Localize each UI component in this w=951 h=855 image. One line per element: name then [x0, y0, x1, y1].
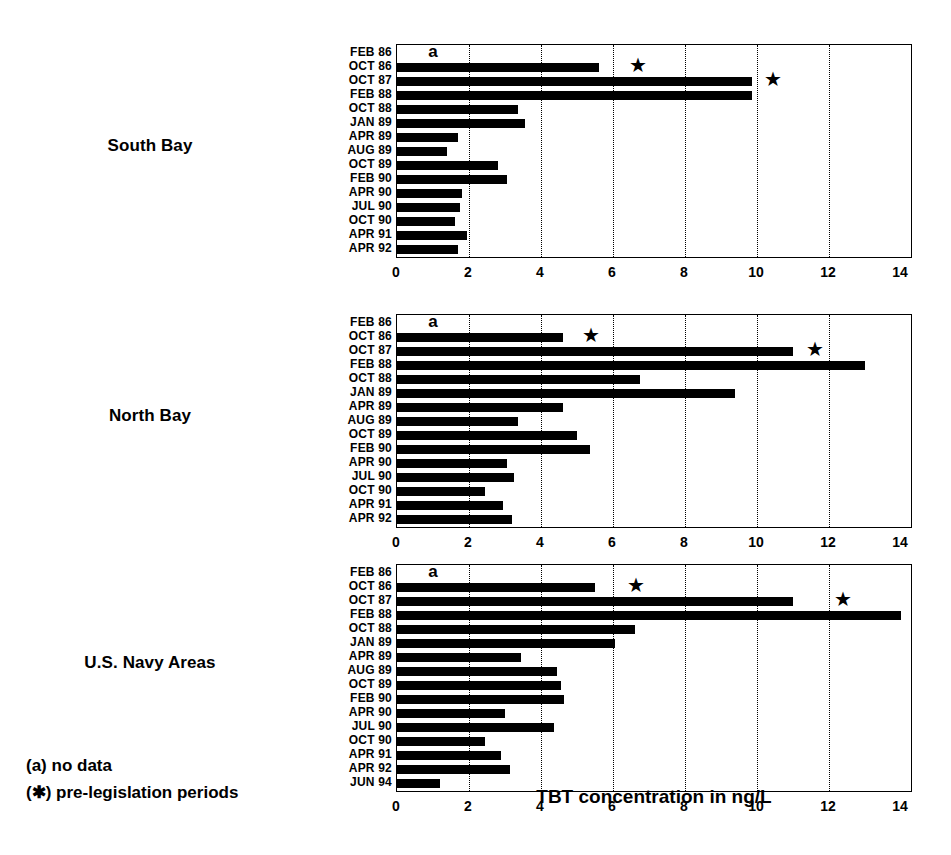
category-label: APR 90	[300, 706, 392, 720]
pre-legislation-star-icon: ★	[806, 342, 824, 356]
bar	[397, 515, 512, 524]
category-label: OCT 86	[300, 60, 392, 74]
category-label: OCT 87	[300, 74, 392, 88]
bar	[397, 445, 590, 454]
bar	[397, 709, 505, 718]
category-label: FEB 88	[300, 608, 392, 622]
x-tick-label: 0	[392, 264, 400, 280]
bar-row	[397, 693, 911, 707]
bar	[397, 203, 460, 212]
x-tick-label: 4	[536, 534, 544, 550]
bar-row: a	[397, 567, 911, 581]
category-label: AUG 89	[300, 664, 392, 678]
category-label: OCT 86	[300, 330, 392, 344]
panel-south-bay: South BayFEB 86OCT 86OCT 87FEB 88OCT 88J…	[0, 30, 951, 280]
panel-label-north-bay: North Bay	[10, 406, 290, 426]
category-label: APR 92	[300, 762, 392, 776]
plot-area-u-s-navy-areas: a★★	[396, 564, 912, 792]
bar-row: a	[397, 47, 911, 61]
bar-row	[397, 145, 911, 159]
bar	[397, 501, 503, 510]
bar-row: a	[397, 317, 911, 331]
pre-legislation-star-icon: ★	[764, 72, 782, 86]
category-label: OCT 87	[300, 344, 392, 358]
bar-row	[397, 499, 911, 513]
category-label: APR 89	[300, 400, 392, 414]
category-label: OCT 88	[300, 622, 392, 636]
category-label: FEB 88	[300, 88, 392, 102]
bar	[397, 611, 901, 620]
category-label: JUL 90	[300, 470, 392, 484]
bar	[397, 245, 458, 254]
bar-row	[397, 471, 911, 485]
category-label: JAN 89	[300, 636, 392, 650]
category-label: JAN 89	[300, 386, 392, 400]
figure-legend: (a) no data (✱) pre-legislation periods	[26, 752, 238, 806]
bar	[397, 347, 793, 356]
bar-row	[397, 159, 911, 173]
bar-row: ★	[397, 595, 911, 609]
bar-row	[397, 513, 911, 527]
category-label: FEB 86	[300, 566, 392, 580]
bar	[397, 63, 599, 72]
category-label: OCT 89	[300, 158, 392, 172]
category-label: APR 92	[300, 512, 392, 526]
category-label: APR 91	[300, 498, 392, 512]
category-label: FEB 90	[300, 172, 392, 186]
no-data-marker: a	[428, 45, 437, 59]
bar-row	[397, 401, 911, 415]
category-label: APR 90	[300, 186, 392, 200]
bar-row	[397, 707, 911, 721]
category-label: AUG 89	[300, 144, 392, 158]
bar-row	[397, 89, 911, 103]
bar	[397, 375, 640, 384]
bar	[397, 695, 564, 704]
bar-rows: a★★	[397, 565, 911, 791]
x-tick-label: 10	[748, 264, 764, 280]
bar-row: ★	[397, 331, 911, 345]
category-label: JUN 94	[300, 776, 392, 790]
category-label: APR 89	[300, 650, 392, 664]
x-tick-label: 2	[464, 534, 472, 550]
bar-row	[397, 201, 911, 215]
bar-row	[397, 215, 911, 229]
category-label: FEB 86	[300, 316, 392, 330]
bar	[397, 333, 563, 342]
bar-row	[397, 429, 911, 443]
bar-row	[397, 665, 911, 679]
bar-rows: a★★	[397, 315, 911, 527]
bar	[397, 91, 752, 100]
category-label: JUL 90	[300, 720, 392, 734]
x-tick-label: 10	[748, 534, 764, 550]
bar-row	[397, 229, 911, 243]
legend-pre-legislation: (✱) pre-legislation periods	[26, 779, 238, 806]
pre-legislation-star-icon: ★	[834, 592, 852, 606]
bar	[397, 653, 521, 662]
bar-row	[397, 173, 911, 187]
bar	[397, 105, 518, 114]
bar	[397, 431, 577, 440]
bar-row	[397, 415, 911, 429]
x-tick-label: 2	[464, 264, 472, 280]
category-label: AUG 89	[300, 414, 392, 428]
bar-row	[397, 485, 911, 499]
category-label: JAN 89	[300, 116, 392, 130]
bar	[397, 403, 563, 412]
x-tick-label: 12	[820, 534, 836, 550]
no-data-marker: a	[428, 565, 437, 579]
plot-area-north-bay: a★★	[396, 314, 912, 528]
bar	[397, 597, 793, 606]
bar-row	[397, 443, 911, 457]
category-label: OCT 90	[300, 734, 392, 748]
panel-north-bay: North BayFEB 86OCT 86OCT 87FEB 88OCT 88J…	[0, 300, 951, 550]
bar-row	[397, 749, 911, 763]
bar	[397, 765, 510, 774]
category-label: APR 89	[300, 130, 392, 144]
bar	[397, 189, 462, 198]
bar	[397, 473, 514, 482]
bar-row	[397, 679, 911, 693]
category-axis-u-s-navy-areas: FEB 86OCT 86OCT 87FEB 88OCT 88JAN 89APR …	[300, 566, 392, 790]
category-label: OCT 86	[300, 580, 392, 594]
bar-row	[397, 117, 911, 131]
bar	[397, 361, 865, 370]
